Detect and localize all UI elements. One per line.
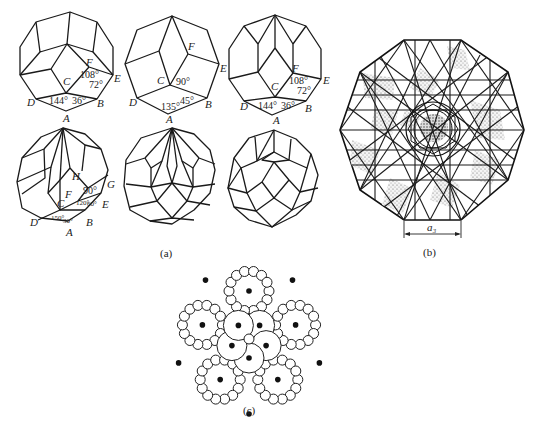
svg-text:D: D [29, 216, 38, 228]
svg-text:E: E [101, 198, 109, 210]
svg-text:B: B [86, 216, 93, 228]
svg-text:C: C [63, 75, 71, 87]
svg-text:30°: 30° [63, 217, 73, 225]
svg-text:45°: 45° [180, 95, 194, 106]
caption-b: (b) [423, 246, 436, 259]
caption-a: (a) [160, 247, 173, 260]
svg-text:135°: 135° [161, 101, 180, 112]
svg-text:B: B [205, 98, 212, 110]
caption-c: (c) [243, 404, 256, 417]
svg-text:72°: 72° [89, 79, 103, 90]
svg-text:F: F [64, 188, 72, 200]
a3-dimension-label: a₃ [427, 221, 437, 233]
svg-text:F: F [291, 62, 299, 74]
dodecagon-bottom-right [228, 130, 318, 227]
dodecagonal-tiling-figure: a₃ [340, 40, 524, 238]
svg-text:E: E [113, 72, 121, 84]
figure-canvas: F C E D B A 108° 72° 144° 36° F C E D B … [0, 0, 541, 427]
svg-text:F: F [85, 56, 93, 68]
dodecagon-bottom-middle [124, 128, 215, 224]
svg-text:36°: 36° [281, 100, 295, 111]
svg-text:36°: 36° [72, 95, 86, 106]
svg-text:60°: 60° [87, 200, 97, 208]
svg-text:F: F [187, 40, 195, 52]
svg-text:C: C [271, 80, 279, 92]
svg-text:144°: 144° [49, 95, 68, 106]
svg-text:72°: 72° [297, 85, 311, 96]
svg-text:A: A [65, 226, 73, 238]
svg-text:D: D [26, 96, 35, 108]
svg-text:A: A [272, 114, 280, 126]
svg-text:E: E [322, 74, 330, 86]
svg-text:B: B [305, 102, 312, 114]
svg-text:C: C [157, 74, 165, 86]
svg-text:144°: 144° [258, 100, 277, 111]
svg-text:90°: 90° [176, 76, 190, 87]
svg-text:A: A [62, 112, 70, 124]
svg-text:E: E [219, 62, 227, 74]
decagon-top-right-labels: F C E D B A 108° 72° 144° 36° [239, 62, 330, 126]
svg-text:B: B [97, 97, 104, 109]
decagon-top-left-labels: F C E D B A 108° 72° 144° 36° [26, 56, 121, 124]
cluster-packing-figure [176, 267, 322, 417]
svg-text:D: D [128, 96, 137, 108]
svg-text:D: D [239, 100, 248, 112]
svg-text:H: H [71, 170, 81, 182]
svg-text:A: A [165, 113, 173, 125]
svg-text:90°: 90° [83, 185, 97, 196]
svg-text:C: C [57, 197, 65, 209]
svg-text:G: G [107, 178, 115, 190]
